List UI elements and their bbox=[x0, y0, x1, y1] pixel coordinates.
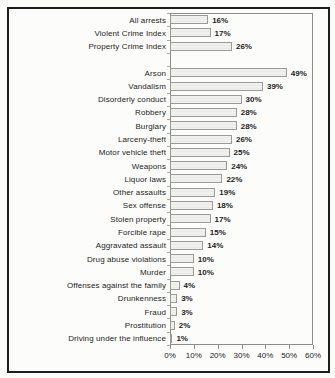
category-label: Driving under the influence bbox=[68, 334, 166, 343]
chart-row: Burglary 28% bbox=[9, 119, 328, 132]
value-label: 15% bbox=[210, 228, 226, 237]
bar bbox=[170, 294, 177, 303]
value-label: 3% bbox=[181, 308, 193, 317]
chart-row: Larceny-theft 26% bbox=[9, 133, 328, 146]
y-axis-tick bbox=[167, 332, 170, 333]
value-label: 24% bbox=[231, 162, 247, 171]
category-label: Vandalism bbox=[128, 82, 166, 91]
value-label: 1% bbox=[176, 334, 188, 343]
chart-row: Disorderly conduct 30% bbox=[9, 93, 328, 106]
chart-row: Driving under the influence 1% bbox=[9, 332, 328, 345]
chart-row: Sex offense 18% bbox=[9, 199, 328, 212]
category-label: Offenses against the family bbox=[67, 281, 166, 290]
y-axis-tick bbox=[167, 186, 170, 187]
chart-row: Violent Crime Index 17% bbox=[9, 26, 328, 39]
y-axis-tick bbox=[167, 318, 170, 319]
bar bbox=[170, 281, 180, 290]
y-axis-tick bbox=[167, 13, 170, 14]
value-label: 18% bbox=[217, 201, 233, 210]
value-label: 3% bbox=[181, 294, 193, 303]
y-axis-tick bbox=[167, 252, 170, 253]
bar bbox=[170, 68, 287, 77]
chart-row: Liquor laws 22% bbox=[9, 172, 328, 185]
bar bbox=[170, 148, 230, 157]
value-label: 26% bbox=[236, 135, 252, 144]
category-label: All arrests bbox=[129, 16, 166, 25]
y-axis-tick bbox=[167, 106, 170, 107]
x-tick-label: 60% bbox=[298, 351, 328, 360]
category-label: Motor vehicle theft bbox=[99, 148, 166, 157]
bar bbox=[170, 82, 263, 91]
y-axis-tick bbox=[167, 66, 170, 67]
category-label: Robbery bbox=[135, 108, 166, 117]
bar bbox=[170, 42, 232, 51]
value-label: 26% bbox=[236, 42, 252, 51]
bar bbox=[170, 15, 208, 24]
category-label: Weapons bbox=[132, 162, 166, 171]
x-axis-tick bbox=[170, 345, 171, 349]
chart-row: Drunkenness 3% bbox=[9, 292, 328, 305]
bar bbox=[170, 241, 203, 250]
y-axis-tick bbox=[167, 199, 170, 200]
y-axis-tick bbox=[167, 265, 170, 266]
value-label: 10% bbox=[198, 268, 214, 277]
bar bbox=[170, 95, 242, 104]
category-label: Prostitution bbox=[125, 321, 166, 330]
value-label: 28% bbox=[241, 108, 257, 117]
value-label: 14% bbox=[207, 241, 223, 250]
chart-row: Drug abuse violations 10% bbox=[9, 252, 328, 265]
chart-row: Prostitution 2% bbox=[9, 318, 328, 331]
chart-row: Property Crime Index 26% bbox=[9, 40, 328, 53]
y-axis-tick bbox=[167, 159, 170, 160]
chart-row: Weapons 24% bbox=[9, 159, 328, 172]
bar bbox=[170, 121, 237, 130]
chart-row: Stolen property 17% bbox=[9, 212, 328, 225]
chart-row: Forcible rape 15% bbox=[9, 225, 328, 238]
chart-row: Vandalism 39% bbox=[9, 79, 328, 92]
y-axis-tick bbox=[167, 79, 170, 80]
category-label: Burglary bbox=[135, 122, 166, 131]
value-label: 25% bbox=[234, 148, 250, 157]
x-axis-tick bbox=[242, 345, 243, 349]
category-label: Arson bbox=[145, 69, 166, 78]
category-label: Stolen property bbox=[110, 215, 166, 224]
category-label: Other assaults bbox=[113, 188, 166, 197]
x-axis-tick bbox=[218, 345, 219, 349]
bar-chart: All arrests 16% Violent Crime Index 17% … bbox=[9, 9, 328, 371]
y-axis-tick bbox=[167, 279, 170, 280]
bar bbox=[170, 135, 232, 144]
bar bbox=[170, 214, 211, 223]
y-axis-tick bbox=[167, 146, 170, 147]
category-label: Larceny-theft bbox=[118, 135, 166, 144]
value-label: 17% bbox=[215, 29, 231, 38]
y-axis-tick bbox=[167, 93, 170, 94]
chart-row: Murder 10% bbox=[9, 265, 328, 278]
category-label: Sex offense bbox=[123, 201, 166, 210]
chart-row: Other assaults 19% bbox=[9, 186, 328, 199]
bar bbox=[170, 161, 227, 170]
value-label: 19% bbox=[219, 188, 235, 197]
category-label: Drug abuse violations bbox=[87, 255, 166, 264]
category-label: Aggravated assault bbox=[96, 241, 166, 250]
y-axis-tick bbox=[167, 119, 170, 120]
value-label: 49% bbox=[291, 69, 307, 78]
bar bbox=[170, 228, 206, 237]
chart-row: Motor vehicle theft 25% bbox=[9, 146, 328, 159]
bar bbox=[170, 28, 211, 37]
value-label: 10% bbox=[198, 255, 214, 264]
value-label: 22% bbox=[226, 175, 242, 184]
y-axis-tick bbox=[167, 40, 170, 41]
x-axis-tick bbox=[289, 345, 290, 349]
category-label: Liquor laws bbox=[124, 175, 166, 184]
bar bbox=[170, 108, 237, 117]
y-axis-tick bbox=[167, 305, 170, 306]
bar bbox=[170, 307, 177, 316]
y-axis-tick bbox=[167, 239, 170, 240]
bar bbox=[170, 201, 213, 210]
y-axis-tick bbox=[167, 225, 170, 226]
chart-row: Robbery 28% bbox=[9, 106, 328, 119]
bar bbox=[170, 254, 194, 263]
value-label: 30% bbox=[246, 95, 262, 104]
value-label: 17% bbox=[215, 215, 231, 224]
bar bbox=[170, 188, 215, 197]
